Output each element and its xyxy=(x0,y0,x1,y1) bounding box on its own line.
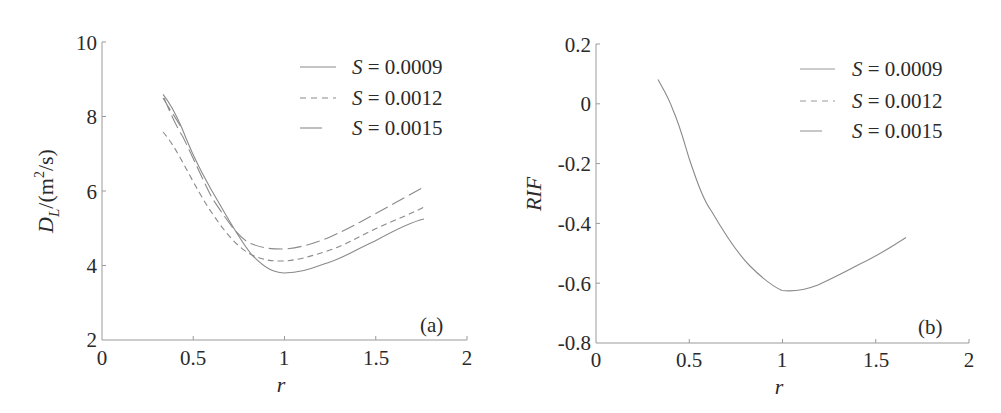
chart-b-panel-label: (b) xyxy=(918,315,943,339)
chart-b-legend: S = 0.0009 S = 0.0012 S = 0.0015 xyxy=(800,57,943,143)
chart-b-ylabel: RIF xyxy=(521,176,546,212)
chart-a-xlabel: r xyxy=(277,372,286,397)
chart-b-ytick-0: 0 xyxy=(581,92,592,116)
chart-b-xlabel: r xyxy=(775,374,784,399)
chart-a-ytick-6: 6 xyxy=(87,180,98,204)
chart-b-xtick-1: 1 xyxy=(777,348,788,372)
chart-b-xtick-2: 2 xyxy=(964,348,975,372)
chart-a-series-s0012 xyxy=(163,132,424,261)
chart-a-legend-item-1: S = 0.0012 xyxy=(352,86,443,110)
chart-a-ylabel: DL/(m2/s) xyxy=(32,149,62,234)
chart-a-ytick-4: 4 xyxy=(87,254,98,278)
chart-a-panel-label: (a) xyxy=(420,313,443,337)
chart-b-xtick-0.5: 0.5 xyxy=(676,348,702,372)
figure: 10 8 6 4 2 0 0.5 1 1.5 2 r DL/(m2/s) S =… xyxy=(0,0,1001,413)
chart-a-xtick-0: 0 xyxy=(97,346,108,370)
chart-b-ytick-0.2: 0.2 xyxy=(565,33,591,57)
chart-a-x-ticks xyxy=(193,336,376,340)
chart-a-xtick-1: 1 xyxy=(279,346,290,370)
chart-a-xtick-1.5: 1.5 xyxy=(363,346,389,370)
chart-b: 0.2 0 -0.2 -0.4 -0.6 -0.8 0 0.5 1 1.5 2 … xyxy=(521,33,974,399)
chart-a-ytick-10: 10 xyxy=(76,31,97,55)
chart-a-y-ticks xyxy=(102,42,106,266)
chart-a-xtick-0.5: 0.5 xyxy=(180,346,206,370)
chart-b-ytick-neg0.4: -0.4 xyxy=(558,212,592,236)
chart-b-ytick-neg0.6: -0.6 xyxy=(558,272,591,296)
chart-b-legend-item-2: S = 0.0015 xyxy=(852,119,943,143)
chart-a-legend-item-2: S = 0.0015 xyxy=(352,116,443,140)
chart-b-xtick-1.5: 1.5 xyxy=(863,348,889,372)
chart-a: 10 8 6 4 2 0 0.5 1 1.5 2 r DL/(m2/s) S =… xyxy=(32,31,472,397)
chart-a-legend-item-0: S = 0.0009 xyxy=(352,55,443,79)
chart-b-legend-item-1: S = 0.0012 xyxy=(852,89,943,113)
chart-b-xtick-0: 0 xyxy=(591,348,602,372)
chart-a-legend: S = 0.0009 S = 0.0012 S = 0.0015 xyxy=(300,55,443,140)
chart-b-ytick-neg0.2: -0.2 xyxy=(558,152,591,176)
chart-b-ytick-neg0.8: -0.8 xyxy=(558,331,591,355)
chart-b-legend-item-0: S = 0.0009 xyxy=(852,57,943,81)
chart-a-ytick-8: 8 xyxy=(87,105,98,129)
chart-a-ytick-2: 2 xyxy=(87,328,98,352)
chart-b-y-ticks xyxy=(596,44,600,283)
chart-b-x-ticks xyxy=(689,339,876,343)
chart-a-xtick-2: 2 xyxy=(462,346,473,370)
